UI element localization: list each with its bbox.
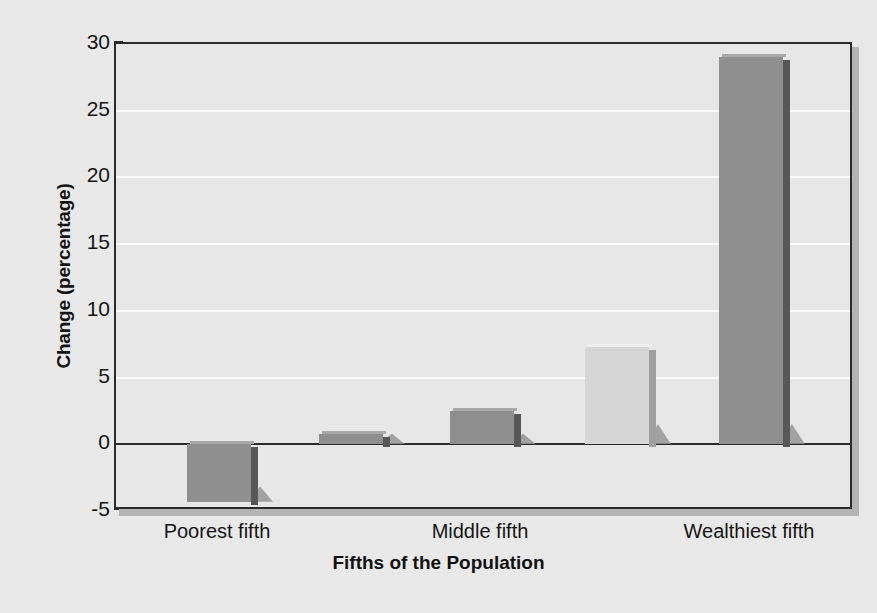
y-axis-tick-label: 30 bbox=[64, 30, 110, 54]
bar-front-face bbox=[187, 444, 251, 501]
bar-side-face bbox=[783, 60, 790, 447]
bar[interactable] bbox=[187, 444, 251, 501]
y-axis-tick-label: 0 bbox=[64, 430, 110, 454]
bar-front-face bbox=[585, 347, 649, 444]
chart-page: Change (percentage) 302520151050-5 Poore… bbox=[0, 0, 877, 613]
bar[interactable] bbox=[319, 434, 383, 445]
plot-area bbox=[116, 44, 850, 507]
y-axis-tick-label: -5 bbox=[64, 497, 110, 521]
y-axis-tick-label: 25 bbox=[64, 97, 110, 121]
x-axis-tick-label: Middle fifth bbox=[432, 520, 529, 543]
y-axis-tick-label: 5 bbox=[64, 364, 110, 388]
y-axis-tick-label: 15 bbox=[64, 230, 110, 254]
bar-front-face bbox=[450, 411, 514, 444]
bar-front-face bbox=[319, 434, 383, 445]
bar[interactable] bbox=[450, 411, 514, 444]
bar-side-face bbox=[649, 350, 656, 447]
y-axis-tick-label: 10 bbox=[64, 297, 110, 321]
plot-frame bbox=[114, 42, 852, 509]
x-axis-tick-label: Poorest fifth bbox=[164, 520, 271, 543]
bar-side-face bbox=[514, 414, 521, 447]
bar[interactable] bbox=[585, 347, 649, 444]
bar[interactable] bbox=[719, 57, 783, 444]
y-axis-tick-label: 20 bbox=[64, 163, 110, 187]
bar-side-face bbox=[251, 447, 258, 504]
bar-front-face bbox=[719, 57, 783, 444]
x-axis-tick-label: Wealthiest fifth bbox=[684, 520, 815, 543]
y-axis-tick-labels: 302520151050-5 bbox=[52, 42, 110, 509]
bar-side-face bbox=[383, 437, 390, 448]
y-axis-title-container: Change (percentage) bbox=[22, 42, 52, 509]
x-axis-title: Fifths of the Population bbox=[0, 552, 877, 574]
